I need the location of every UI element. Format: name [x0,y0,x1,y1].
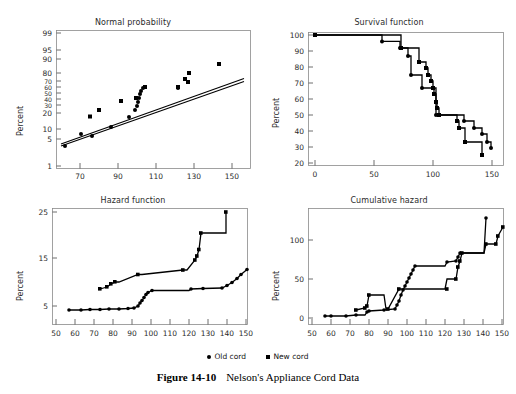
series-new-cord-markers [313,33,484,157]
plot-frame [53,209,248,325]
xtick-50: 50 [307,329,317,338]
y-axis-ticks [309,35,314,163]
series-new-cord-markers [98,210,228,290]
y-axis-ticks [309,240,314,318]
xtick-140: 140 [220,329,235,338]
xtick-70: 70 [75,172,85,181]
xtick-0: 0 [313,170,318,179]
y-axis-label-survival-function: Percent [272,98,281,128]
xtick-140: 140 [476,329,491,338]
ytick-70: 70 [294,79,304,88]
series-new-cord-line [356,227,503,310]
legend-label-new-cord: New cord [273,352,308,361]
ytick-100: 100 [290,236,305,245]
x-axis-ticks [315,160,492,166]
plot-frame [309,33,504,166]
xtick-130: 130 [187,172,202,181]
xtick-120: 120 [182,329,197,338]
ytick-40: 40 [294,127,304,136]
x-axis-tick-labels: 70 90 110 130 150 [75,172,239,181]
y-axis-tick-labels: 100 90 80 70 60 50 40 30 20 [290,31,305,168]
ytick-30: 30 [294,143,304,152]
ytick-50: 50 [294,111,304,120]
xtick-70: 70 [89,329,99,338]
x-axis-tick-labels: 50 60 70 80 90 100 110 120 130 140 150 [51,329,253,338]
xtick-90: 90 [127,329,137,338]
figure-container: Normal probability Percent 99 [0,0,516,394]
square-marker-icon [266,355,270,359]
xtick-120: 120 [438,329,453,338]
ytick-20: 20 [42,109,52,118]
ytick-5: 5 [43,302,48,311]
ytick-10: 10 [42,125,52,134]
xtick-80: 80 [364,329,374,338]
xtick-90: 90 [383,329,393,338]
ytick-25: 25 [38,208,48,217]
fit-lines [61,79,244,147]
chart-normal-probability: Normal probability Percent 99 [8,18,258,183]
x-axis-ticks [312,319,502,325]
xtick-130: 130 [201,329,216,338]
x-axis-ticks [80,163,232,169]
y-axis-ticks [57,33,62,166]
series-old-cord-line [69,270,247,311]
old-cord-fit-line [61,82,244,147]
ytick-95: 95 [42,46,52,55]
ytick-80: 80 [294,63,304,72]
xtick-110: 110 [419,329,434,338]
legend-item-old-cord: Old cord [207,352,246,361]
series-new-cord-markers [354,225,505,312]
y-axis-label-normal-probability: Percent [16,106,25,136]
xtick-100: 100 [400,329,415,338]
xtick-130: 130 [457,329,472,338]
chart-title-hazard-function: Hazard function [8,196,258,205]
chart-title-cumulative-hazard: Cumulative hazard [264,196,514,205]
plot-area-normal-probability: 99 95 90 80 70 60 50 40 30 20 10 5 1 [8,18,258,183]
plot-frame [57,31,251,169]
xtick-100: 100 [426,170,441,179]
ytick-90: 90 [42,55,52,64]
figure-number: Figure 14-10 [157,371,216,383]
xtick-150: 150 [239,329,254,338]
y-axis-tick-labels: 25 15 5 [38,208,48,311]
y-axis-ticks [53,212,58,306]
xtick-80: 80 [108,329,118,338]
plot-area-cumulative-hazard: 100 50 0 50 60 70 80 [264,196,514,351]
xtick-60: 60 [326,329,336,338]
xtick-150: 150 [485,170,500,179]
ytick-1: 1 [47,162,52,171]
series-new-cord-line [100,212,226,289]
ytick-99: 99 [42,29,52,38]
x-axis-tick-labels: 50 60 70 80 90 100 110 120 130 140 150 [307,329,509,338]
ytick-20: 20 [294,159,304,168]
xtick-110: 110 [163,329,178,338]
xtick-50: 50 [51,329,61,338]
ytick-50: 50 [294,275,304,284]
chart-survival-function: Survival function Percent 100 90 80 70 6… [264,18,514,183]
series-old-cord-markers [313,33,493,150]
new-cord-fit-line [61,79,244,145]
xtick-70: 70 [345,329,355,338]
xtick-50: 50 [369,170,379,179]
xtick-150: 150 [225,172,240,181]
xtick-110: 110 [149,172,164,181]
figure-caption-text: Nelson's Appliance Cord Data [226,371,359,383]
legend-item-new-cord: New cord [266,352,308,361]
ytick-100: 100 [290,31,305,40]
y-axis-label-cumulative-hazard: Percent [272,271,281,301]
ytick-30: 30 [44,102,52,109]
figure-legend: Old cord New cord [0,352,516,361]
plot-frame [309,209,504,325]
legend-label-old-cord: Old cord [214,352,246,361]
xtick-150: 150 [495,329,510,338]
plot-area-survival-function: 100 90 80 70 60 50 40 30 20 0 50 100 150 [264,18,514,183]
ytick-15: 15 [38,254,48,263]
ytick-5: 5 [47,135,52,144]
ytick-90: 90 [294,47,304,56]
y-axis-label-hazard-function: Percent [16,271,25,301]
x-axis-ticks [56,319,246,325]
chart-hazard-function: Hazard function Percent 25 15 5 [8,196,258,351]
series-old-cord-markers [323,216,488,318]
y-axis-tick-labels: 99 95 90 80 70 60 50 40 30 20 10 5 1 [42,29,52,171]
chart-cumulative-hazard: Cumulative hazard Percent 100 50 0 [264,196,514,351]
